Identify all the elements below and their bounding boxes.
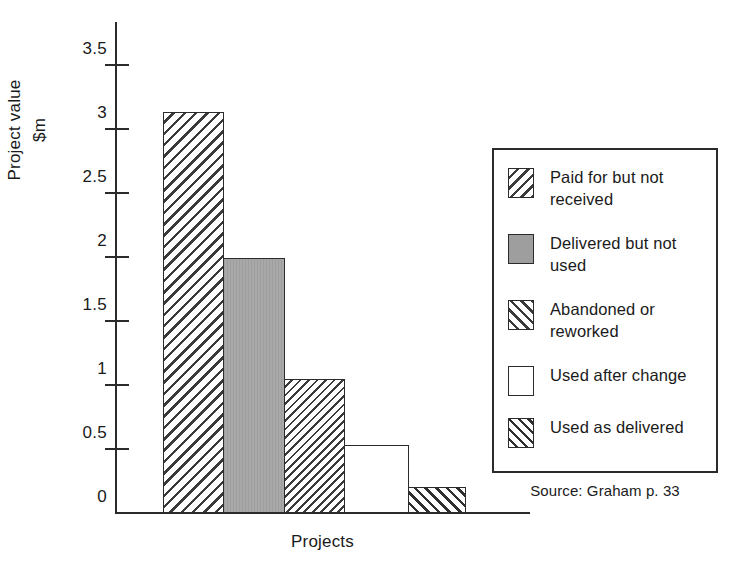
- legend-swatch-solid-grey-icon: [508, 234, 534, 264]
- y-tick-label-0.5: 0.5: [65, 424, 107, 441]
- y-tick-label-2.5: 2.5: [65, 168, 107, 185]
- source-note: Source: Graham p. 33: [492, 482, 718, 499]
- bar-delivered-but-not-used: [223, 258, 285, 513]
- legend-label-used-after-change: Used after change: [550, 364, 687, 386]
- y-tick-label-3.5: 3.5: [65, 40, 107, 57]
- x-axis-label: Projects: [115, 532, 530, 552]
- legend-swatch-diagonal-fine-icon: [508, 300, 534, 330]
- y-tick-label-2: 2: [65, 232, 107, 249]
- legend-item-delivered-but-not-used: Delivered but not used: [508, 232, 712, 276]
- bar-paid-for-but-not-received: [163, 112, 224, 513]
- legend-swatch-plain-white-icon: [508, 366, 534, 396]
- bar-used-as-delivered: [408, 487, 466, 513]
- legend-label-paid-for-but-not-received: Paid for but not received: [550, 166, 664, 210]
- y-axis-tick-labels: 3.5 3 2.5 2 1.5 1 0.5 0: [45, 0, 107, 568]
- y-tick-mark-3.5: [105, 64, 129, 66]
- bar-abandoned-or-reworked: [284, 379, 345, 513]
- legend-item-used-as-delivered: Used as delivered: [508, 416, 712, 448]
- y-axis-line: [115, 22, 117, 514]
- legend-swatch-diagonal-wide-icon: [508, 168, 534, 198]
- legend-item-paid-for-but-not-received: Paid for but not received: [508, 166, 712, 210]
- legend-item-abandoned-or-reworked: Abandoned or reworked: [508, 298, 712, 342]
- y-tick-mark-0.5: [105, 448, 129, 450]
- y-tick-label-1: 1: [65, 360, 107, 377]
- legend-item-used-after-change: Used after change: [508, 364, 712, 396]
- y-tick-mark-2: [105, 256, 129, 258]
- legend-label-delivered-but-not-used: Delivered but not used: [550, 232, 676, 276]
- y-tick-label-1.5: 1.5: [65, 296, 107, 313]
- legend-swatch-crosshatch-icon: [508, 418, 534, 448]
- bar-used-after-change: [344, 445, 409, 513]
- legend-label-used-as-delivered: Used as delivered: [550, 416, 684, 438]
- y-tick-mark-2.5: [105, 192, 129, 194]
- y-tick-mark-1.5: [105, 320, 129, 322]
- y-tick-mark-3: [105, 128, 129, 130]
- bar-chart-figure: Project value $m 3.5 3 2.5 2 1.5 1 0.5 0…: [0, 0, 733, 568]
- legend-label-abandoned-or-reworked: Abandoned or reworked: [550, 298, 655, 342]
- legend-box: Paid for but not received Delivered but …: [492, 148, 718, 473]
- y-axis-label-line1: Project value: [2, 30, 27, 230]
- y-tick-label-0: 0: [65, 488, 107, 505]
- y-tick-label-3: 3: [65, 104, 107, 121]
- y-tick-mark-1: [105, 384, 129, 386]
